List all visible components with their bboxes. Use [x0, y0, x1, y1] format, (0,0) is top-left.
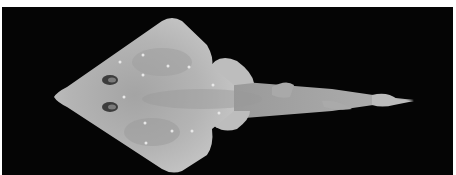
photo-frame: [2, 7, 453, 175]
ray-illustration: [2, 7, 453, 175]
